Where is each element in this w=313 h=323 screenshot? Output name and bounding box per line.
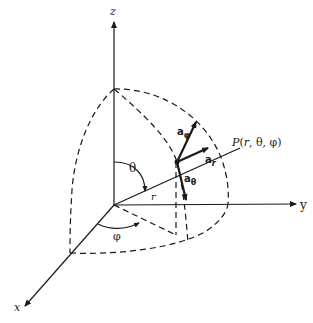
phi-label: φ — [113, 230, 121, 243]
z-axis-label: z — [109, 5, 116, 18]
radius-line — [114, 148, 240, 205]
a-r-label: ar — [205, 154, 217, 168]
axes — [25, 22, 296, 306]
spherical-coordinates-diagram: z y x θ φ r PP(r, θ, φ)(r, θ, φ) aφ ar a… — [0, 0, 313, 323]
theta-label: θ — [129, 161, 136, 175]
radius-label: r — [151, 191, 157, 202]
a-theta-label: aθ — [184, 173, 197, 187]
r-projection — [114, 205, 176, 235]
point-p-label: PP(r, θ, φ)(r, θ, φ) — [231, 136, 282, 149]
y-axis — [114, 204, 296, 205]
x-axis — [25, 205, 114, 306]
arc-z-to-y — [114, 89, 228, 204]
y-axis-label: y — [299, 198, 307, 212]
x-axis-label: x — [14, 301, 21, 314]
arc-z-to-x — [70, 89, 114, 253]
a-phi-label: aφ — [177, 126, 190, 140]
phi-arc — [98, 223, 139, 228]
